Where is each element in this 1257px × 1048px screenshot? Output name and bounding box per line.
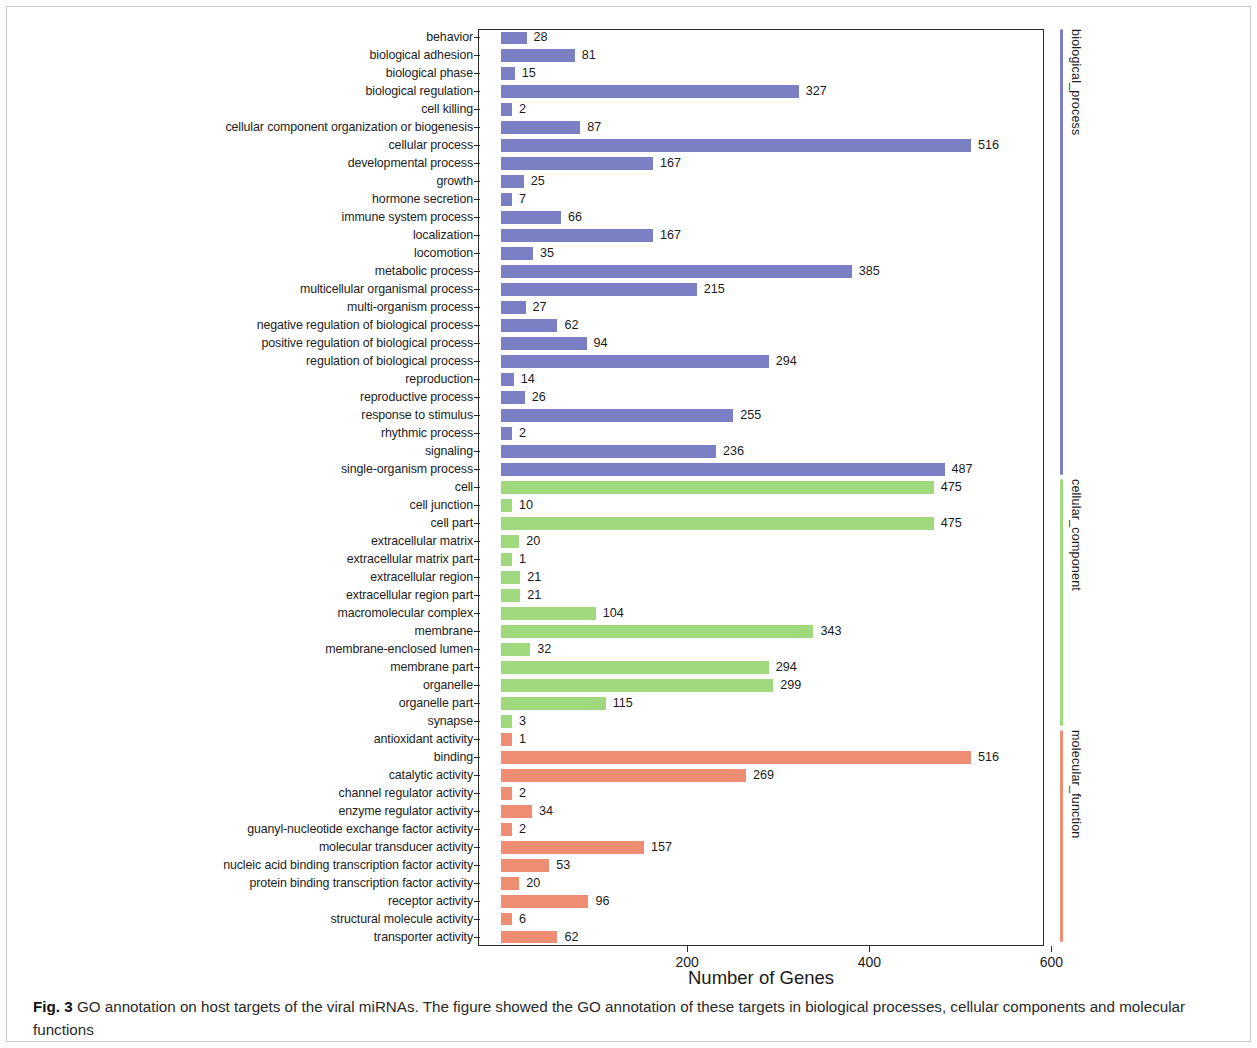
- category-label: organelle: [7, 679, 473, 692]
- category-label: cellular process: [7, 139, 473, 152]
- bar-value-label: 28: [534, 31, 548, 44]
- bar-value-label: 2: [519, 103, 526, 116]
- bar-row: nucleic acid binding transcription facto…: [7, 856, 1047, 874]
- bar: [501, 517, 934, 530]
- category-label: multicellular organismal process: [7, 283, 473, 296]
- bar-row: catalytic activity269: [7, 766, 1047, 784]
- x-axis-tick: [1051, 946, 1052, 952]
- legend-color-bracket: [1060, 479, 1063, 727]
- bar-and-value: 34: [501, 802, 1047, 821]
- bar-row: positive regulation of biological proces…: [7, 335, 1047, 353]
- category-label: binding: [7, 751, 473, 764]
- bar-row: protein binding transcription factor act…: [7, 874, 1047, 892]
- bar-row: extracellular region21: [7, 568, 1047, 586]
- y-axis-tick: [474, 613, 480, 614]
- bar-row: rhythmic process2: [7, 425, 1047, 443]
- y-axis-tick: [474, 685, 480, 686]
- bar-and-value: 25: [501, 172, 1047, 191]
- category-label: antioxidant activity: [7, 733, 473, 746]
- y-axis-tick: [474, 667, 480, 668]
- y-axis-tick: [474, 307, 480, 308]
- bar-value-label: 255: [740, 409, 761, 422]
- bar: [501, 661, 769, 674]
- bar: [501, 49, 575, 62]
- y-axis-tick: [474, 505, 480, 506]
- bar-row: cell killing2: [7, 101, 1047, 119]
- bar: [501, 409, 733, 422]
- bar-row: reproductive process26: [7, 389, 1047, 407]
- category-label: positive regulation of biological proces…: [7, 337, 473, 350]
- category-label: enzyme regulator activity: [7, 805, 473, 818]
- y-axis-tick: [474, 145, 480, 146]
- bar: [501, 139, 971, 152]
- bar-and-value: 21: [501, 586, 1047, 605]
- bar-row: reproduction14: [7, 371, 1047, 389]
- bar-and-value: 10: [501, 496, 1047, 515]
- category-label: extracellular matrix: [7, 535, 473, 548]
- y-axis-tick: [474, 433, 480, 434]
- bar: [501, 67, 515, 80]
- bar-row: biological phase15: [7, 65, 1047, 83]
- bar: [501, 211, 561, 224]
- bar-and-value: 115: [501, 694, 1047, 713]
- y-axis-tick: [474, 181, 480, 182]
- y-axis-tick: [474, 343, 480, 344]
- y-axis-tick: [474, 937, 480, 938]
- bar-value-label: 26: [532, 391, 546, 404]
- category-label: biological phase: [7, 67, 473, 80]
- y-axis-tick: [474, 919, 480, 920]
- bar-row: guanyl-nucleotide exchange factor activi…: [7, 820, 1047, 838]
- bar: [501, 913, 512, 926]
- bar-row: locomotion35: [7, 245, 1047, 263]
- bar: [501, 247, 533, 260]
- bar-value-label: 104: [603, 607, 624, 620]
- legend-group-molecular-function: molecular_function: [1060, 730, 1120, 946]
- bar: [501, 877, 519, 890]
- bar-value-label: 62: [564, 931, 578, 944]
- y-axis-tick: [474, 253, 480, 254]
- category-label: behavior: [7, 31, 473, 44]
- category-label: localization: [7, 229, 473, 242]
- bar-and-value: 215: [501, 280, 1047, 299]
- bar-and-value: 2: [501, 784, 1047, 803]
- bar-rows-container: behavior28biological adhesion81biologica…: [7, 29, 1047, 946]
- bar: [501, 859, 549, 872]
- bar-value-label: 25: [531, 175, 545, 188]
- bar-value-label: 10: [519, 499, 533, 512]
- legend-group-cellular-component: cellular_component: [1060, 479, 1120, 731]
- bar-row: cell part475: [7, 514, 1047, 532]
- figure-container: behavior28biological adhesion81biologica…: [6, 6, 1251, 1042]
- bar: [501, 715, 512, 728]
- bar-value-label: 35: [540, 247, 554, 260]
- bar: [501, 319, 557, 332]
- bar-and-value: 27: [501, 298, 1047, 317]
- bar-value-label: 167: [660, 157, 681, 170]
- bar-value-label: 1: [519, 733, 526, 746]
- bar-and-value: 26: [501, 388, 1047, 407]
- bar-row: cell475: [7, 479, 1047, 497]
- bar-and-value: 516: [501, 748, 1047, 767]
- y-axis-tick: [474, 739, 480, 740]
- bar-and-value: 167: [501, 226, 1047, 245]
- ontology-legend: biological_processcellular_componentmole…: [1060, 29, 1120, 946]
- y-axis-tick: [474, 811, 480, 812]
- y-axis-tick: [474, 757, 480, 758]
- bar-and-value: 14: [501, 370, 1047, 389]
- bar: [501, 751, 971, 764]
- bar-and-value: 343: [501, 622, 1047, 641]
- x-axis-title: Number of Genes: [478, 967, 1044, 989]
- bar-row: extracellular matrix20: [7, 532, 1047, 550]
- bar-and-value: 87: [501, 119, 1047, 138]
- category-label: cellular component organization or bioge…: [7, 121, 473, 134]
- y-axis-tick: [474, 289, 480, 290]
- category-label: extracellular matrix part: [7, 553, 473, 566]
- bar-row: biological adhesion81: [7, 47, 1047, 65]
- bar-and-value: 21: [501, 568, 1047, 587]
- bar-value-label: 20: [526, 535, 540, 548]
- y-axis-tick: [474, 91, 480, 92]
- bar-and-value: 66: [501, 208, 1047, 227]
- bar-value-label: 385: [859, 265, 880, 278]
- category-label: nucleic acid binding transcription facto…: [7, 859, 473, 872]
- bar-row: extracellular region part21: [7, 586, 1047, 604]
- y-axis-tick: [474, 163, 480, 164]
